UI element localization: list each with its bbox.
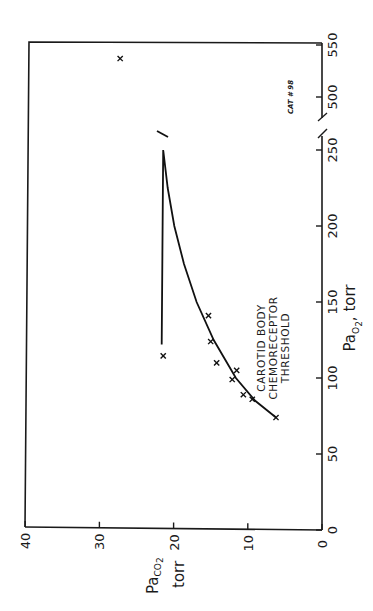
svg-text:PaCO2: PaCO2 [144, 557, 165, 594]
y-axis-title-subsub: 2 [155, 557, 165, 563]
y-tick-label: 10 [241, 535, 256, 552]
svg-text:PaO2, torr: PaO2, torr [341, 284, 364, 352]
x-tick-label: 200 [325, 214, 340, 239]
plot-frame [25, 42, 327, 530]
frame-top-left [25, 42, 322, 527]
data-point-x-marker [234, 368, 239, 373]
data-point-x-marker [206, 313, 211, 318]
data-point-x-marker [273, 415, 278, 420]
x-tick-label: 150 [325, 290, 340, 315]
x-tick-label: 100 [325, 366, 340, 391]
data-point-x-marker [118, 56, 123, 61]
annotation-line-1: CAROTID BODY [255, 304, 267, 391]
y-tick-label: 0 [315, 540, 330, 548]
x-tick-label: 0 [325, 526, 340, 534]
curve-end-bar [157, 131, 168, 137]
y-tick-label: 20 [167, 534, 182, 551]
y-axis-title-units: torr [170, 560, 188, 588]
annotation-line-3: THRESHOLD [279, 313, 291, 384]
data-point-x-marker [230, 377, 235, 382]
data-point-x-marker [214, 360, 219, 365]
cat-label: CAT # 98 [287, 80, 295, 114]
x-axis-title-sub: O [351, 327, 361, 334]
x-tick-label: 500 [325, 85, 340, 110]
x-tick-label: 50 [325, 446, 340, 463]
x-axis-title: PaO2, torr [341, 284, 364, 352]
y-axis-title-sub: CO [153, 563, 163, 576]
x-axis-title-units: , torr [341, 284, 359, 321]
y-tick-label: 30 [92, 533, 107, 550]
threshold-annotation: CAROTID BODY CHEMORECEPTOR THRESHOLD [255, 296, 291, 399]
data-point-x-marker [161, 353, 166, 358]
chart: 050100150200250500550 010203040 PaO2, to… [0, 0, 373, 611]
data-point-x-marker [208, 339, 213, 344]
y-axis-title-main: Pa [144, 576, 162, 594]
y-axis-ticks: 010203040 [18, 521, 330, 552]
y-tick-label: 40 [18, 533, 33, 550]
x-tick-label: 250 [325, 138, 340, 163]
data-point-x-marker [241, 392, 246, 397]
x-tick-label: 550 [325, 33, 340, 58]
y-axis-title: PaCO2 torr [144, 557, 188, 594]
x-axis-title-main: Pa [341, 334, 359, 352]
x-axis-ticks: 050100150200250500550 [316, 33, 340, 535]
annotation-line-2: CHEMORECEPTOR [267, 296, 279, 399]
